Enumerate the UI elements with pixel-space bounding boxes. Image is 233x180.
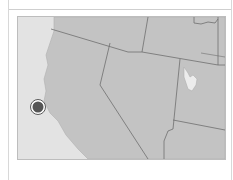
map-card bbox=[8, 0, 232, 180]
card-header bbox=[9, 0, 231, 10]
map-view[interactable] bbox=[17, 16, 226, 160]
map-canvas bbox=[18, 17, 225, 159]
location-marker-icon[interactable] bbox=[31, 100, 46, 115]
